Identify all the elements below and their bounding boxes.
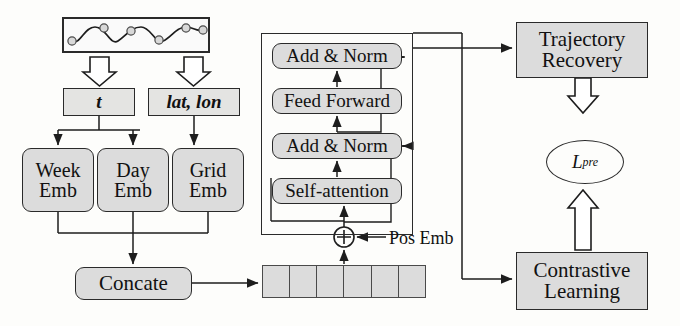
token-cell	[371, 265, 399, 298]
add-norm-upper-box: Add & Norm	[272, 43, 402, 69]
block-arrow-recovery-to-loss	[568, 78, 598, 113]
token-cell	[398, 265, 426, 298]
feature-box-time: t	[63, 88, 135, 116]
block-arrow-to-time	[83, 57, 116, 86]
week-emb-line2: Emb	[39, 180, 77, 200]
token-cell	[343, 265, 371, 298]
contrastive-learning-line2: Learning	[544, 281, 620, 302]
grid-emb-line1: Grid	[190, 160, 227, 180]
loss-node: Lpre	[546, 140, 624, 184]
day-emb-line2: Emb	[114, 180, 152, 200]
contrastive-learning-line1: Contrastive	[534, 260, 631, 281]
contrastive-learning-box: Contrastive Learning	[516, 252, 648, 310]
week-emb-box: Week Emb	[22, 148, 94, 212]
token-sequence-row	[262, 265, 426, 298]
grid-emb-box: Grid Emb	[172, 148, 244, 212]
architecture-diagram: t lat, lon Week Emb Day Emb Grid Emb Con…	[0, 0, 680, 326]
trajectory-recovery-box: Trajectory Recovery	[516, 22, 648, 78]
token-cell	[316, 265, 344, 298]
trajectory-curve	[68, 24, 207, 45]
loss-symbol: L	[572, 151, 583, 173]
self-attention-box: Self-attention	[272, 178, 402, 204]
day-emb-box: Day Emb	[97, 148, 169, 212]
concate-box: Concate	[75, 267, 192, 300]
trajectory-recovery-line2: Recovery	[542, 50, 622, 71]
feed-forward-box: Feed Forward	[272, 88, 402, 114]
block-arrow-contrastive-to-loss	[568, 190, 598, 250]
feature-box-location: lat, lon	[148, 88, 240, 116]
pos-emb-label: Pos Emb	[389, 228, 454, 249]
loss-subscript: pre	[583, 155, 599, 170]
trajectory-recovery-line1: Trajectory	[539, 29, 626, 50]
day-emb-line1: Day	[116, 160, 149, 180]
token-cell	[289, 265, 317, 298]
grid-emb-line2: Emb	[189, 180, 227, 200]
add-norm-lower-box: Add & Norm	[272, 133, 402, 159]
block-arrow-to-location	[177, 57, 210, 86]
token-cell	[262, 265, 290, 298]
week-emb-line1: Week	[35, 160, 80, 180]
